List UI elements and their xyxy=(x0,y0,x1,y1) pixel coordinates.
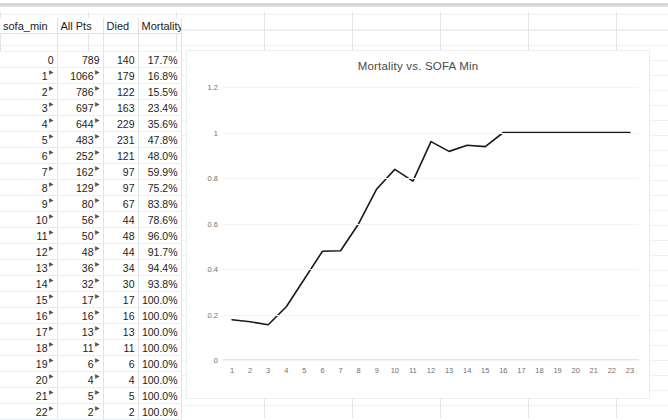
cell-died[interactable]: 140 xyxy=(103,52,138,68)
cell-died[interactable]: 16 xyxy=(103,308,138,324)
cell-mortality[interactable]: 94.4% xyxy=(138,260,181,276)
cell-mortality[interactable]: 100.0% xyxy=(138,308,181,324)
column-header-died[interactable]: Died xyxy=(103,18,138,34)
cell-mortality[interactable]: 47.8% xyxy=(138,132,181,148)
cell-all-pts[interactable]: 48▶ xyxy=(57,244,103,260)
cell-sofa-min[interactable]: 16▶ xyxy=(0,308,57,324)
cell-sofa-min[interactable]: 18▶ xyxy=(0,340,57,356)
cell-sofa-min[interactable]: 6▶ xyxy=(0,148,57,164)
cell-died[interactable]: 163 xyxy=(103,100,138,116)
cell-all-pts[interactable]: 6▶ xyxy=(57,356,103,372)
cell-all-pts[interactable]: 252▶ xyxy=(57,148,103,164)
cell-died[interactable]: 179 xyxy=(103,68,138,84)
cell-all-pts[interactable]: 4▶ xyxy=(57,372,103,388)
cell-died[interactable]: 2 xyxy=(103,404,138,420)
cell-sofa-min[interactable]: 2▶ xyxy=(0,84,57,100)
cell-all-pts[interactable]: 50▶ xyxy=(57,228,103,244)
cell-sofa-min[interactable]: 0 xyxy=(0,52,57,68)
column-header-mortality[interactable]: Mortality xyxy=(138,18,181,34)
cell-died[interactable]: 13 xyxy=(103,324,138,340)
cell-all-pts[interactable]: 16▶ xyxy=(57,308,103,324)
column-header-sofa-min[interactable]: sofa_min xyxy=(0,18,57,34)
cell-all-pts[interactable]: 17▶ xyxy=(57,292,103,308)
cell-died[interactable]: 48 xyxy=(103,228,138,244)
cell-all-pts[interactable]: 789 xyxy=(57,52,103,68)
cell-sofa-min[interactable]: 12▶ xyxy=(0,244,57,260)
cell-died[interactable]: 34 xyxy=(103,260,138,276)
cell-all-pts[interactable]: 5▶ xyxy=(57,388,103,404)
cell-mortality[interactable]: 100.0% xyxy=(138,324,181,340)
cell-mortality[interactable]: 100.0% xyxy=(138,356,181,372)
cell-sofa-min[interactable]: 4▶ xyxy=(0,116,57,132)
cell-sofa-min[interactable]: 19▶ xyxy=(0,356,57,372)
cell-all-pts[interactable]: 483▶ xyxy=(57,132,103,148)
cell-sofa-min[interactable]: 10▶ xyxy=(0,212,57,228)
cell-mortality[interactable]: 48.0% xyxy=(138,148,181,164)
cell-died[interactable]: 231 xyxy=(103,132,138,148)
cell-died[interactable]: 11 xyxy=(103,340,138,356)
cell-sofa-min[interactable]: 21▶ xyxy=(0,388,57,404)
cell-died[interactable]: 5 xyxy=(103,388,138,404)
cell-died[interactable]: 122 xyxy=(103,84,138,100)
cell-mortality[interactable]: 35.6% xyxy=(138,116,181,132)
cell-mortality[interactable]: 93.8% xyxy=(138,276,181,292)
cell-all-pts[interactable]: 13▶ xyxy=(57,324,103,340)
y-gridline xyxy=(223,224,639,225)
cell-sofa-min[interactable]: 14▶ xyxy=(0,276,57,292)
cell-all-pts[interactable]: 56▶ xyxy=(57,212,103,228)
cell-died[interactable]: 6 xyxy=(103,356,138,372)
cell-mortality[interactable]: 59.9% xyxy=(138,164,181,180)
cell-all-pts[interactable]: 644▶ xyxy=(57,116,103,132)
cell-mortality[interactable]: 96.0% xyxy=(138,228,181,244)
cell-mortality[interactable]: 91.7% xyxy=(138,244,181,260)
cell-all-pts[interactable]: 32▶ xyxy=(57,276,103,292)
cell-mortality[interactable]: 23.4% xyxy=(138,100,181,116)
cell-all-pts[interactable]: 36▶ xyxy=(57,260,103,276)
cell-sofa-min[interactable]: 7▶ xyxy=(0,164,57,180)
cell-mortality[interactable]: 100.0% xyxy=(138,404,181,420)
cell-all-pts[interactable]: 162▶ xyxy=(57,164,103,180)
cell-died[interactable]: 97 xyxy=(103,180,138,196)
cell-died[interactable]: 4 xyxy=(103,372,138,388)
cell-all-pts[interactable]: 1066▶ xyxy=(57,68,103,84)
chart-plot-area: 00.20.40.60.811.2 xyxy=(223,87,639,360)
cell-all-pts[interactable]: 2▶ xyxy=(57,404,103,420)
cell-sofa-min[interactable]: 11▶ xyxy=(0,228,57,244)
cell-died[interactable]: 229 xyxy=(103,116,138,132)
cell-sofa-min[interactable]: 8▶ xyxy=(0,180,57,196)
cell-mortality[interactable]: 15.5% xyxy=(138,84,181,100)
cell-sofa-min[interactable]: 22▶ xyxy=(0,404,57,420)
cell-sofa-min[interactable]: 15▶ xyxy=(0,292,57,308)
cell-sofa-min[interactable]: 9▶ xyxy=(0,196,57,212)
cell-all-pts[interactable]: 129▶ xyxy=(57,180,103,196)
cell-all-pts[interactable]: 80▶ xyxy=(57,196,103,212)
x-axis-tick-label: 20 xyxy=(572,366,580,375)
cell-sofa-min[interactable]: 5▶ xyxy=(0,132,57,148)
cell-mortality[interactable]: 75.2% xyxy=(138,180,181,196)
cell-sofa-min[interactable]: 3▶ xyxy=(0,100,57,116)
cell-died[interactable]: 44 xyxy=(103,212,138,228)
cell-mortality[interactable]: 83.8% xyxy=(138,196,181,212)
cell-mortality[interactable]: 100.0% xyxy=(138,292,181,308)
cell-sofa-min[interactable]: 17▶ xyxy=(0,324,57,340)
chart-panel[interactable]: Mortality vs. SOFA Min 00.20.40.60.811.2… xyxy=(186,50,650,399)
cell-sofa-min[interactable]: 1▶ xyxy=(0,68,57,84)
column-header-all-pts[interactable]: All Pts xyxy=(57,18,103,34)
cell-mortality[interactable]: 17.7% xyxy=(138,52,181,68)
cell-mortality[interactable]: 100.0% xyxy=(138,388,181,404)
cell-all-pts[interactable]: 697▶ xyxy=(57,100,103,116)
cell-mortality[interactable]: 16.8% xyxy=(138,68,181,84)
cell-mortality[interactable]: 78.6% xyxy=(138,212,181,228)
cell-mortality[interactable]: 100.0% xyxy=(138,372,181,388)
cell-sofa-min[interactable]: 20▶ xyxy=(0,372,57,388)
cell-all-pts[interactable]: 786▶ xyxy=(57,84,103,100)
cell-mortality[interactable]: 100.0% xyxy=(138,340,181,356)
cell-died[interactable]: 67 xyxy=(103,196,138,212)
cell-died[interactable]: 44 xyxy=(103,244,138,260)
cell-sofa-min[interactable]: 13▶ xyxy=(0,260,57,276)
cell-died[interactable]: 17 xyxy=(103,292,138,308)
cell-died[interactable]: 121 xyxy=(103,148,138,164)
cell-died[interactable]: 97 xyxy=(103,164,138,180)
cell-died[interactable]: 30 xyxy=(103,276,138,292)
cell-all-pts[interactable]: 11▶ xyxy=(57,340,103,356)
